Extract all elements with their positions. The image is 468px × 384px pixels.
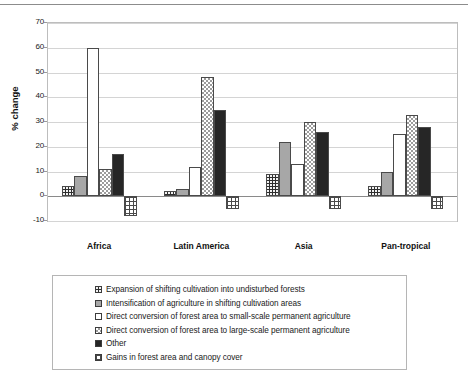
legend-label: Expansion of shifting cultivation into u… <box>106 285 305 294</box>
y-tick-label: 10 <box>4 167 44 175</box>
y-tick-label: 40 <box>4 92 44 100</box>
legend-item: Direct conversion of forest area to larg… <box>95 324 350 337</box>
top-divider-rule <box>0 4 468 5</box>
bar <box>266 174 279 196</box>
bar <box>99 169 112 196</box>
bar-group-africa <box>48 23 150 221</box>
y-tick-label: 60 <box>4 43 44 51</box>
y-tick-label: 30 <box>4 117 44 125</box>
bar <box>406 115 419 197</box>
legend-item: Direct conversion of forest area to smal… <box>95 310 351 323</box>
bar <box>201 77 214 196</box>
bar <box>381 172 394 197</box>
x-category-label: Latin America <box>150 241 252 251</box>
bar <box>62 186 75 196</box>
bar <box>431 196 444 208</box>
y-tick-label: 70 <box>4 18 44 26</box>
legend-swatch-black-solid-icon <box>95 340 102 347</box>
bar <box>176 189 189 196</box>
legend-label: Direct conversion of forest area to smal… <box>106 312 351 321</box>
bar <box>279 142 292 196</box>
legend-label: Intensification of agriculture in shifti… <box>106 299 301 308</box>
bar <box>368 186 381 196</box>
legend-item: Intensification of agriculture in shifti… <box>95 297 301 310</box>
legend-swatch-white-empty-icon <box>95 313 102 320</box>
legend-swatch-dark-dotted-icon <box>95 286 102 293</box>
bar <box>112 154 125 196</box>
bar <box>316 132 329 196</box>
bar <box>226 196 239 208</box>
x-category-label: Asia <box>253 241 355 251</box>
y-tick-label: -10 <box>4 216 44 224</box>
gridline <box>48 221 457 222</box>
legend-swatch-gray-solid-icon <box>95 300 102 307</box>
bar <box>124 196 137 216</box>
legend-item: Expansion of shifting cultivation into u… <box>95 283 305 296</box>
bar <box>164 191 177 196</box>
y-tick-label: 0 <box>4 191 44 199</box>
legend-item: Other <box>95 337 126 350</box>
bar <box>418 127 431 196</box>
bar <box>329 196 342 208</box>
bar-group-pan-tropical <box>355 23 457 221</box>
bar <box>87 48 100 197</box>
bar <box>214 110 227 197</box>
legend-swatch-light-checker-icon <box>95 327 102 334</box>
bar <box>74 176 87 196</box>
bar <box>304 122 317 196</box>
chart-plot-region: % change 706050403020100-10 AfricaLatin … <box>0 8 468 260</box>
y-tick-label: 20 <box>4 142 44 150</box>
bar <box>189 167 202 197</box>
x-category-label: Africa <box>48 241 150 251</box>
legend-label: Direct conversion of forest area to larg… <box>106 326 350 335</box>
bar-group-latin-america <box>150 23 252 221</box>
y-axis-tick-labels: 706050403020100-10 <box>0 22 44 222</box>
legend-label: Other <box>106 339 126 348</box>
bar <box>393 134 406 196</box>
bar-groups-layer: AfricaLatin AmericaAsiaPan-tropical <box>48 23 457 221</box>
legend-label: Gains in forest area and canopy cover <box>106 353 243 362</box>
chart-legend: Expansion of shifting cultivation into u… <box>52 275 407 370</box>
legend-swatch-grid-lines-icon <box>95 354 102 361</box>
bar-group-asia <box>253 23 355 221</box>
x-category-label: Pan-tropical <box>355 241 457 251</box>
bar <box>291 164 304 196</box>
y-tick-label: 50 <box>4 68 44 76</box>
legend-item: Gains in forest area and canopy cover <box>95 351 243 364</box>
